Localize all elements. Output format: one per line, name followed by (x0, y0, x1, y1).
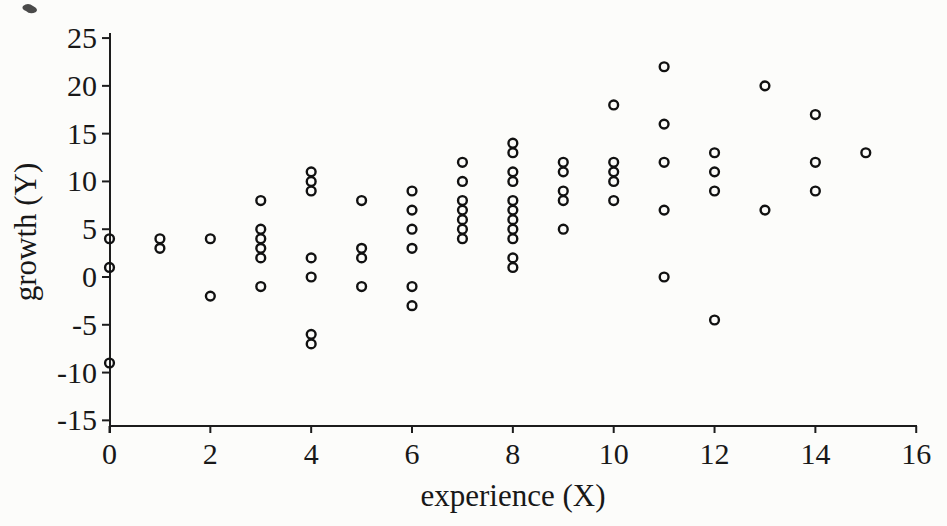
data-point (256, 253, 265, 262)
y-tick-label: 20 (67, 69, 97, 102)
data-point (408, 206, 417, 215)
data-point (508, 196, 517, 205)
data-point (307, 167, 316, 176)
data-point (508, 177, 517, 186)
y-tick-label: -10 (57, 356, 97, 389)
data-point (256, 196, 265, 205)
data-point (458, 158, 467, 167)
data-point (508, 234, 517, 243)
data-point (609, 167, 618, 176)
data-point (609, 177, 618, 186)
data-point (609, 101, 618, 110)
data-point (307, 339, 316, 348)
data-point (710, 187, 719, 196)
data-point (458, 177, 467, 186)
data-point (660, 273, 669, 282)
data-point (508, 167, 517, 176)
data-point (357, 196, 366, 205)
data-point (811, 110, 820, 119)
data-point (256, 225, 265, 234)
data-point (660, 158, 669, 167)
data-point (508, 206, 517, 215)
data-point (508, 253, 517, 262)
data-point (408, 244, 417, 253)
data-point (206, 234, 215, 243)
data-point (761, 81, 770, 90)
data-point (508, 225, 517, 234)
data-point (559, 225, 568, 234)
data-point (408, 282, 417, 291)
data-point (256, 282, 265, 291)
data-point (307, 177, 316, 186)
data-point (861, 148, 870, 157)
data-point (660, 62, 669, 71)
data-point (761, 206, 770, 215)
data-point (256, 234, 265, 243)
data-point (458, 206, 467, 215)
x-tick-label: 0 (102, 437, 117, 470)
data-point (811, 187, 820, 196)
data-point (408, 301, 417, 310)
data-point (710, 167, 719, 176)
data-point (307, 253, 316, 262)
data-point (307, 187, 316, 196)
data-point (458, 225, 467, 234)
data-points (105, 62, 870, 367)
scatter-figure: 2520151050-5-10-150246810121416 experien… (0, 0, 947, 526)
data-point (206, 292, 215, 301)
data-point (559, 167, 568, 176)
data-point (458, 234, 467, 243)
data-point (559, 158, 568, 167)
scatter-plot-svg: 2520151050-5-10-150246810121416 experien… (0, 0, 947, 526)
data-point (660, 120, 669, 129)
tick-labels: 2520151050-5-10-150246810121416 (57, 21, 931, 470)
data-point (609, 158, 618, 167)
x-tick-label: 8 (505, 437, 520, 470)
data-point (408, 187, 417, 196)
data-point (357, 253, 366, 262)
data-point (660, 206, 669, 215)
data-point (508, 148, 517, 157)
data-point (256, 244, 265, 253)
x-tick-label: 12 (700, 437, 730, 470)
data-point (710, 316, 719, 325)
x-tick-label: 4 (304, 437, 319, 470)
data-point (609, 196, 618, 205)
x-tick-label: 6 (405, 437, 420, 470)
data-point (458, 215, 467, 224)
x-axis-title: experience (X) (420, 478, 605, 513)
data-point (508, 215, 517, 224)
data-point (559, 196, 568, 205)
y-tick-label: 10 (67, 164, 97, 197)
x-tick-label: 2 (203, 437, 218, 470)
data-point (307, 330, 316, 339)
y-tick-label: -5 (72, 308, 97, 341)
data-point (357, 282, 366, 291)
data-point (408, 225, 417, 234)
data-point (508, 139, 517, 148)
y-axis-title: growth (Y) (8, 163, 43, 302)
scan-smudge-artifact (22, 4, 37, 13)
y-tick-label: 5 (82, 212, 97, 245)
y-tick-label: 0 (82, 260, 97, 293)
data-point (458, 196, 467, 205)
x-tick-label: 10 (599, 437, 629, 470)
data-point (357, 244, 366, 253)
y-tick-label: 25 (67, 21, 97, 54)
data-point (307, 273, 316, 282)
y-tick-label: -15 (57, 403, 97, 436)
x-tick-label: 16 (901, 437, 931, 470)
data-point (811, 158, 820, 167)
y-tick-label: 15 (67, 117, 97, 150)
x-tick-label: 14 (800, 437, 830, 470)
data-point (710, 148, 719, 157)
data-point (156, 234, 165, 243)
data-point (559, 187, 568, 196)
data-point (156, 244, 165, 253)
data-point (508, 263, 517, 272)
